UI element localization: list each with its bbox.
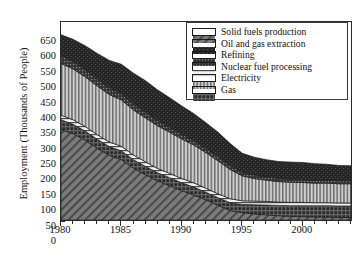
legend-swatch-solid-dark xyxy=(192,39,216,48)
legend-item: Electricity xyxy=(192,72,343,84)
y-axis-label: 400 xyxy=(22,113,56,124)
y-axis-label: 450 xyxy=(22,98,56,109)
y-axis-tick-labels: 050100150200250300350400450500550600650 xyxy=(18,21,56,221)
legend-swatch-dense-cross-hatch xyxy=(192,86,216,95)
x-axis-minor-tick xyxy=(157,221,158,224)
y-axis-label: 150 xyxy=(22,190,56,201)
legend-swatch-horizontal-lines xyxy=(192,62,216,71)
x-axis-minor-tick xyxy=(217,221,218,224)
legend-item: Gas xyxy=(192,84,343,96)
chart-root: Employment (Thousands of People) 0501001… xyxy=(0,0,362,268)
x-axis-label: 2000 xyxy=(282,224,322,235)
legend-label: Solid fuels production xyxy=(221,27,306,37)
legend-swatch-diagonal-hatch xyxy=(192,28,216,37)
y-axis-label: 200 xyxy=(22,174,56,185)
y-axis-label: 500 xyxy=(22,82,56,93)
legend-item: Oil and gas extraction xyxy=(192,38,343,50)
legend-label: Oil and gas extraction xyxy=(221,39,305,49)
x-axis-label: 1980 xyxy=(40,224,80,235)
legend-label: Nuclear fuel processing xyxy=(221,62,312,72)
x-axis-minor-tick xyxy=(278,221,279,224)
x-axis-minor-tick xyxy=(338,221,339,224)
x-axis-minor-tick xyxy=(145,221,146,224)
x-axis-label: 1985 xyxy=(100,224,140,235)
legend-swatch-fine-dot-dark xyxy=(192,51,216,60)
chart-legend: Solid fuels productionOil and gas extrac… xyxy=(186,22,348,100)
y-axis-label: 550 xyxy=(22,67,56,78)
legend-label: Gas xyxy=(221,85,236,95)
x-axis-minor-tick xyxy=(205,221,206,224)
x-axis-minor-tick xyxy=(96,221,97,224)
legend-item: Nuclear fuel processing xyxy=(192,61,343,73)
legend-item: Refining xyxy=(192,49,343,61)
legend-swatch-vertical-lines xyxy=(192,74,216,83)
y-axis-label: 650 xyxy=(22,36,56,47)
x-axis-minor-tick xyxy=(265,221,266,224)
y-axis-label: 0 xyxy=(22,236,56,247)
legend-item: Solid fuels production xyxy=(192,26,343,38)
x-axis-minor-tick xyxy=(350,221,351,224)
x-axis-label: 1995 xyxy=(221,224,261,235)
y-axis-label: 600 xyxy=(22,51,56,62)
x-axis-minor-tick xyxy=(326,221,327,224)
legend-label: Refining xyxy=(221,50,255,60)
y-axis-label: 250 xyxy=(22,159,56,170)
y-axis-label: 350 xyxy=(22,128,56,139)
x-axis-label: 1990 xyxy=(161,224,201,235)
y-axis-label: 100 xyxy=(22,205,56,216)
legend-label: Electricity xyxy=(221,73,261,83)
y-axis-label: 300 xyxy=(22,144,56,155)
x-axis-minor-tick xyxy=(84,221,85,224)
